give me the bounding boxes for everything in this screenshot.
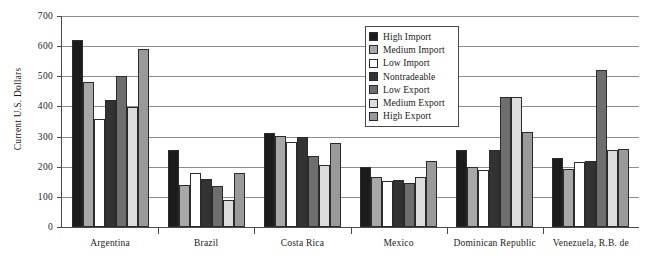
y-axis-tick-label: 200: [38, 162, 53, 172]
category-separator: [158, 227, 159, 234]
bar: [596, 70, 607, 227]
y-axis-tick-label: 0: [48, 222, 53, 232]
x-axis-category-label: Dominican Republic: [454, 238, 537, 248]
y-axis-tick: [57, 227, 62, 228]
bar: [201, 179, 212, 227]
bar: [360, 167, 371, 227]
bar: [500, 97, 511, 227]
legend-label: High Export: [383, 111, 431, 121]
x-axis-category-label: Costa Rica: [281, 238, 324, 248]
legend-swatch-icon: [369, 112, 378, 121]
bar: [223, 200, 234, 227]
legend-item[interactable]: Low Export: [369, 83, 454, 96]
bar: [179, 185, 190, 227]
x-axis-category-label: Venezuela, R.B. de: [553, 238, 629, 248]
bar: [234, 173, 245, 227]
legend-item[interactable]: High Export: [369, 110, 454, 123]
y-axis-tick-label: 500: [38, 71, 53, 81]
bar: [382, 181, 393, 227]
chart-legend: High ImportMedium ImportLow ImportNontra…: [365, 26, 459, 127]
legend-swatch-icon: [369, 72, 378, 81]
legend-item[interactable]: High Import: [369, 30, 454, 43]
bar: [127, 107, 138, 227]
bar: [371, 177, 382, 227]
x-axis-category-label: Mexico: [383, 238, 413, 248]
bar: [168, 150, 179, 227]
bar: [105, 100, 116, 227]
legend-label: Low Export: [383, 85, 430, 95]
bar: [415, 177, 426, 227]
bar: [393, 180, 404, 227]
bar: [94, 119, 105, 227]
y-axis-tick-label: 700: [38, 11, 53, 21]
y-axis-title: Current U.S. Dollars: [13, 9, 23, 209]
legend-label: Nontradeable: [383, 72, 435, 82]
bar: [607, 150, 618, 227]
legend-swatch-icon: [369, 99, 378, 108]
y-axis-tick-label: 600: [38, 41, 53, 51]
bar-group: [158, 16, 254, 227]
bar: [522, 132, 533, 227]
legend-label: High Import: [383, 32, 431, 42]
category-separator: [543, 227, 544, 234]
bar: [478, 170, 489, 227]
y-axis-tick-label: 300: [38, 132, 53, 142]
x-axis-category-label: Brazil: [194, 238, 218, 248]
bar-group: [543, 16, 639, 227]
bar: [467, 167, 478, 227]
bar-group: [62, 16, 158, 227]
y-axis-tick-label: 100: [38, 192, 53, 202]
bar: [116, 76, 127, 227]
bar: [574, 162, 585, 227]
bar: [404, 183, 415, 227]
legend-label: Medium Export: [383, 98, 445, 108]
bar: [275, 136, 286, 227]
legend-swatch-icon: [369, 85, 378, 94]
bar-group: [254, 16, 350, 227]
category-separator: [447, 227, 448, 234]
bar: [308, 156, 319, 227]
bar-group: [447, 16, 543, 227]
y-axis-tick-label: 400: [38, 101, 53, 111]
x-axis-category-label: Argentina: [90, 238, 130, 248]
legend-swatch-icon: [369, 59, 378, 68]
bar: [511, 97, 522, 227]
legend-item[interactable]: Medium Import: [369, 43, 454, 56]
bar-groups: [62, 16, 639, 227]
bar: [330, 143, 341, 227]
bar: [138, 49, 149, 227]
bar: [456, 150, 467, 227]
legend-label: Medium Import: [383, 45, 445, 55]
plot-area: 0100200300400500600700 ArgentinaBrazilCo…: [61, 16, 639, 228]
bar: [552, 158, 563, 227]
legend-swatch-icon: [369, 32, 378, 41]
chart-container: Current U.S. Dollars 0100200300400500600…: [0, 0, 648, 262]
bar: [585, 161, 596, 227]
bar: [212, 186, 223, 227]
bar: [489, 150, 500, 227]
legend-item[interactable]: Low Import: [369, 57, 454, 70]
category-separator: [254, 227, 255, 234]
legend-item[interactable]: Medium Export: [369, 96, 454, 109]
legend-swatch-icon: [369, 45, 378, 54]
bar: [190, 173, 201, 227]
bar: [286, 142, 297, 227]
bar: [297, 137, 308, 227]
bar: [319, 165, 330, 227]
legend-label: Low Import: [383, 58, 430, 68]
bar: [618, 149, 629, 227]
bar: [83, 82, 94, 227]
legend-item[interactable]: Nontradeable: [369, 70, 454, 83]
category-separator: [351, 227, 352, 234]
bar: [426, 161, 437, 227]
bar: [264, 133, 275, 227]
bar: [563, 169, 574, 227]
bar: [72, 40, 83, 227]
